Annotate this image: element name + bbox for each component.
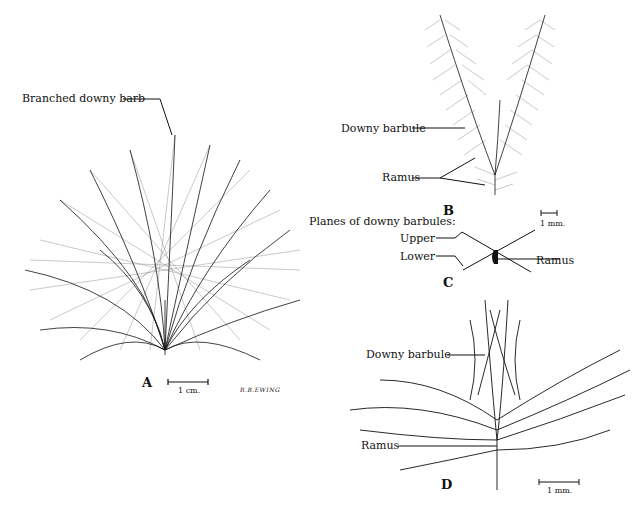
panel-letter-d: D	[441, 477, 452, 492]
panel-letter-a: A	[142, 375, 152, 390]
illustration-canvas	[0, 0, 637, 505]
label-upper: Upper	[400, 233, 435, 244]
label-downy-barbule-d: Downy barbule	[366, 349, 451, 360]
label-ramus-b: Ramus	[382, 172, 420, 183]
scale-label-b: 1 mm.	[540, 219, 565, 228]
label-ramus-c: Ramus	[536, 255, 574, 266]
label-planes-title: Planes of downy barbules:	[309, 216, 456, 227]
label-branched-downy-barb: Branched downy barb	[22, 93, 145, 104]
label-ramus-d: Ramus	[361, 440, 399, 451]
artist-signature: R.B.EWING	[240, 386, 280, 393]
downy-barb-illustration	[440, 15, 545, 195]
scale-label-d: 1 mm.	[547, 486, 572, 495]
label-lower: Lower	[400, 251, 435, 262]
label-downy-barbule-b: Downy barbule	[341, 123, 426, 134]
scale-label-a: 1 cm.	[178, 386, 200, 395]
barb-closeup-illustration	[350, 300, 630, 490]
panel-letter-c: C	[443, 275, 453, 290]
downy-feather-tuft-illustration	[25, 135, 300, 360]
